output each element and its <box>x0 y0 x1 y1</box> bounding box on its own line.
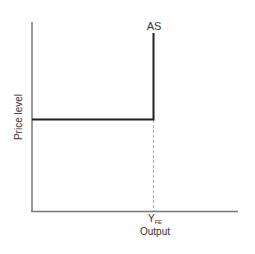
aggregate-supply-diagram: AS Price level YFE Output <box>0 0 255 254</box>
as-curve-label: AS <box>147 20 162 32</box>
as-curve <box>32 33 154 120</box>
y-axis-label: Price level <box>13 94 24 140</box>
yfe-tick-label: YFE <box>148 213 162 225</box>
x-axis-label: Output <box>140 226 170 237</box>
